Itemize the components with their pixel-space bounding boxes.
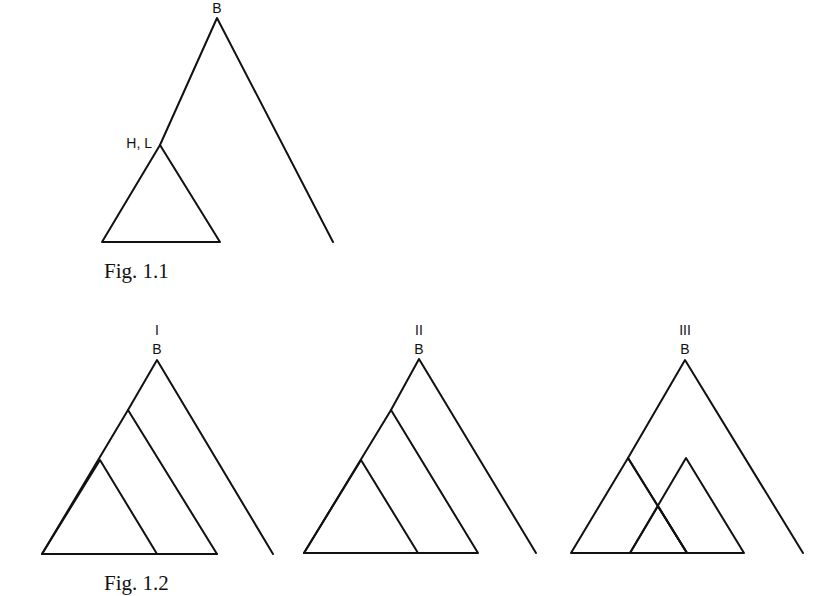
root-label: B	[414, 341, 423, 357]
root-branch	[628, 360, 803, 553]
crosshatch-clade	[304, 460, 418, 553]
horizontal-hatch-clade	[304, 410, 478, 553]
figure-caption: Fig. 1.1	[104, 259, 169, 283]
figure-1-2-panel-3: III B	[571, 322, 803, 553]
panel-numeral: II	[415, 322, 423, 338]
figure-1-1: B H, L Fig. 1.1	[102, 0, 333, 283]
vertical-hatch-clade	[42, 410, 217, 554]
root-label: B	[152, 341, 161, 357]
panel-numeral: III	[679, 322, 691, 338]
crosshatch-overlap	[630, 506, 687, 553]
crosshatch-clade	[102, 145, 220, 242]
root-label: B	[212, 0, 221, 16]
vertical-hatch-clade	[630, 458, 744, 553]
panel-numeral: I	[155, 322, 159, 338]
diagram-canvas: B H, L Fig. 1.1 I B II B III B Fig. 1.2	[0, 0, 839, 596]
crosshatch-clade	[42, 460, 157, 554]
root-branch	[128, 360, 273, 554]
figure-caption: Fig. 1.2	[104, 571, 169, 595]
figure-1-2-panel-2: II B	[304, 322, 536, 553]
horizontal-hatch-clade	[571, 458, 687, 553]
subnode-label: H, L	[126, 135, 152, 151]
figure-1-2-panel-1: I B	[42, 322, 273, 554]
root-label: B	[680, 341, 689, 357]
root-branch	[391, 359, 536, 553]
root-branch	[160, 18, 333, 242]
